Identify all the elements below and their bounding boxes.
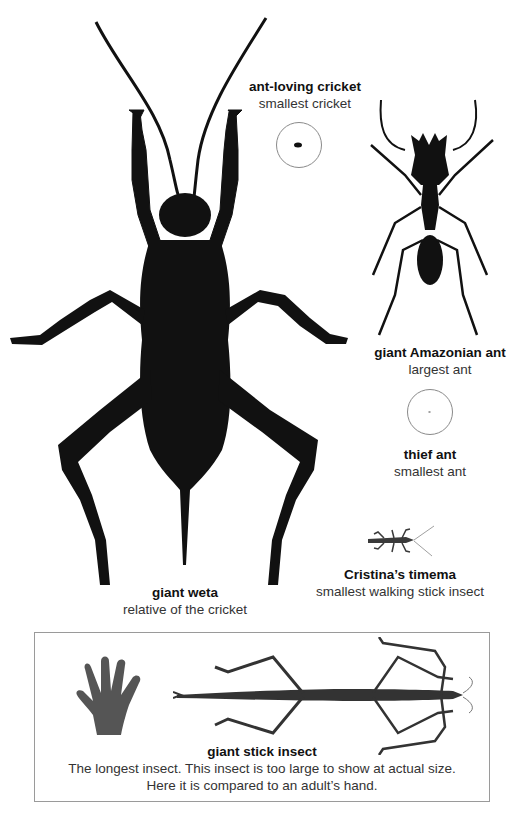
thief-ant-label: thief ant smallest ant bbox=[370, 446, 490, 480]
cristinas-timema-label: Cristina’s timema smallest walking stick… bbox=[315, 566, 485, 600]
insect-description: The longest insect. This insect is too l… bbox=[35, 760, 489, 794]
giant-stick-insect-comparison-box: giant stick insect The longest insect. T… bbox=[34, 632, 490, 802]
insect-description: smallest cricket bbox=[230, 95, 380, 112]
giant-weta-label: giant weta relative of the cricket bbox=[100, 584, 270, 618]
insect-name: ant-loving cricket bbox=[230, 78, 380, 95]
insect-name: thief ant bbox=[370, 446, 490, 463]
insect-description: relative of the cricket bbox=[100, 601, 270, 618]
insect-name: giant Amazonian ant bbox=[355, 344, 525, 361]
insect-description: smallest ant bbox=[370, 463, 490, 480]
giant-amazonian-ant-illustration bbox=[365, 95, 500, 345]
giant-amazonian-ant-label: giant Amazonian ant largest ant bbox=[355, 344, 525, 378]
cristinas-timema-illustration bbox=[366, 524, 436, 558]
thief-ant-circle bbox=[406, 388, 454, 436]
ant-loving-cricket-label: ant-loving cricket smallest cricket bbox=[230, 78, 380, 112]
insect-name: giant weta bbox=[100, 584, 270, 601]
insect-name: Cristina’s timema bbox=[315, 566, 485, 583]
insect-description: largest ant bbox=[355, 361, 525, 378]
giant-stick-insect-illustration bbox=[173, 637, 479, 755]
insect-name: giant stick insect bbox=[35, 743, 489, 760]
insect-description: smallest walking stick insect bbox=[315, 583, 485, 600]
giant-stick-insect-caption: giant stick insect The longest insect. T… bbox=[35, 743, 489, 794]
ant-loving-cricket-circle bbox=[275, 121, 323, 169]
adult-hand-icon bbox=[75, 655, 155, 740]
